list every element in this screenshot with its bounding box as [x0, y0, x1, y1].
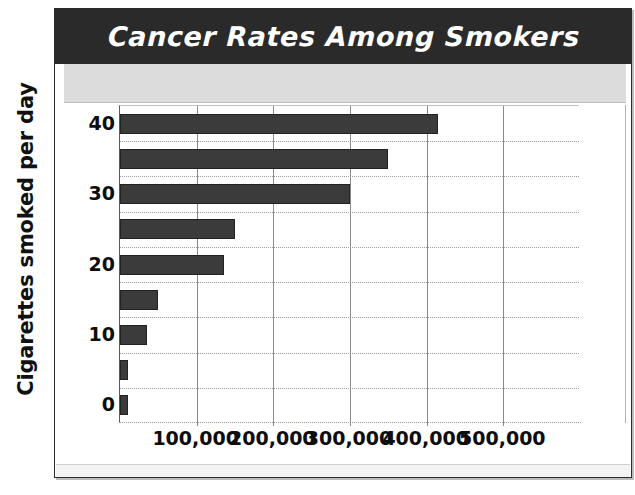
bar	[120, 219, 235, 239]
gridline-horizontal	[120, 317, 579, 318]
y-axis-title-container: Cigarettes smoked per day	[0, 0, 52, 478]
chart-title: Cancer Rates Among Smokers	[107, 21, 580, 52]
x-axis-tick-label: 300,000	[306, 427, 393, 449]
chart-frame: Cancer Rates Among Smokers 010203040 100…	[54, 8, 632, 478]
bar	[120, 325, 147, 345]
gridline-horizontal	[120, 247, 579, 248]
bar-row	[120, 284, 158, 315]
x-axis-tick-label: 200,000	[229, 427, 316, 449]
y-axis-tick-label: 10	[71, 323, 115, 345]
y-axis-title: Cigarettes smoked per day	[14, 82, 38, 396]
y-axis-tick-labels: 010203040	[63, 105, 115, 422]
y-axis-tick-label: 0	[71, 393, 115, 415]
x-axis-tick-label: 500,000	[459, 427, 546, 449]
y-axis-tick-label: 20	[71, 253, 115, 275]
gridline-horizontal	[120, 282, 579, 283]
bar	[120, 149, 388, 169]
bar	[120, 290, 158, 310]
bar-row	[120, 390, 128, 421]
gridline-horizontal	[120, 176, 579, 177]
bar-row	[120, 143, 388, 174]
bar	[120, 255, 224, 275]
x-axis-tick-label: 400,000	[382, 427, 469, 449]
x-axis-tick-labels: 100,000200,000300,000400,000500,000	[119, 427, 589, 457]
legend-strip	[64, 64, 626, 103]
plot-right-edge	[625, 105, 626, 423]
bar-row	[120, 214, 235, 245]
x-axis-tick-label: 100,000	[152, 427, 239, 449]
y-axis-tick-label: 30	[71, 182, 115, 204]
bar-row	[120, 108, 438, 139]
bar	[120, 114, 438, 134]
plot-area	[119, 105, 579, 422]
gridline-horizontal	[120, 388, 579, 389]
bar-row	[120, 179, 350, 210]
chart-screenshot: Cigarettes smoked per day Cancer Rates A…	[0, 0, 635, 495]
gridline-horizontal	[120, 141, 579, 142]
gridline-horizontal	[120, 212, 579, 213]
y-axis-tick-label: 40	[71, 112, 115, 134]
gridline-vertical	[427, 106, 428, 426]
bar-row	[120, 319, 147, 350]
bar-row	[120, 355, 128, 386]
bar-row	[120, 249, 224, 280]
chart-title-banner: Cancer Rates Among Smokers	[55, 9, 632, 64]
gridline-vertical	[503, 106, 504, 426]
frame-bottom-shade	[56, 464, 630, 478]
bar	[120, 395, 128, 415]
bar	[120, 184, 350, 204]
bar	[120, 360, 128, 380]
gridline-horizontal	[120, 353, 579, 354]
x-axis-baseline	[119, 422, 581, 423]
